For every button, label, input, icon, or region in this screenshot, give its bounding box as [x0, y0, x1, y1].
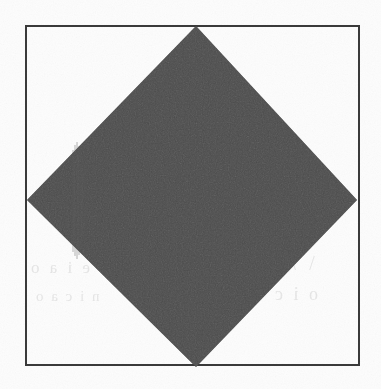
rectangular-border-frame	[25, 25, 360, 366]
scanned-figure-page: r a e i a o n i c a o \ / \ o i c	[0, 0, 381, 389]
